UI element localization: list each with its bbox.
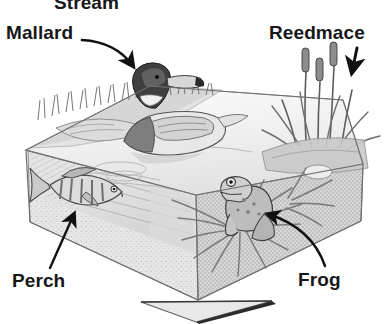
label-mallard: Mallard <box>6 23 73 42</box>
pond-ecosystem-figure: Stream Mallard Reedmace Perch Frog <box>0 0 388 324</box>
label-stream: Stream <box>54 0 119 12</box>
labels-layer: Stream Mallard Reedmace Perch Frog <box>0 0 388 324</box>
label-perch: Perch <box>12 271 65 290</box>
label-frog: Frog <box>298 270 341 289</box>
label-reedmace: Reedmace <box>269 23 365 42</box>
